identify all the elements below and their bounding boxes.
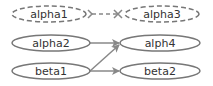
node-alph4[interactable]: alph4 bbox=[120, 35, 200, 51]
node-beta1[interactable]: beta1 bbox=[12, 63, 90, 79]
node-label: beta2 bbox=[144, 65, 176, 78]
node-alpha1[interactable]: alpha1 bbox=[12, 6, 86, 22]
node-alpha3[interactable]: alpha3 bbox=[125, 6, 199, 22]
edge-alpha1-alpha3 bbox=[88, 10, 122, 18]
node-label: alph4 bbox=[145, 37, 176, 50]
node-beta2[interactable]: beta2 bbox=[120, 63, 200, 79]
tee-start-icon bbox=[88, 10, 92, 18]
diagram-canvas: alpha1 alpha3 alpha2 alph4 beta1 beta2 bbox=[0, 0, 213, 86]
node-label: beta1 bbox=[35, 65, 67, 78]
node-label: alpha2 bbox=[32, 37, 70, 50]
node-label: alpha1 bbox=[30, 8, 68, 21]
node-label: alpha3 bbox=[143, 8, 181, 21]
node-alpha2[interactable]: alpha2 bbox=[12, 35, 90, 51]
edge-beta1-alph4 bbox=[90, 45, 119, 71]
